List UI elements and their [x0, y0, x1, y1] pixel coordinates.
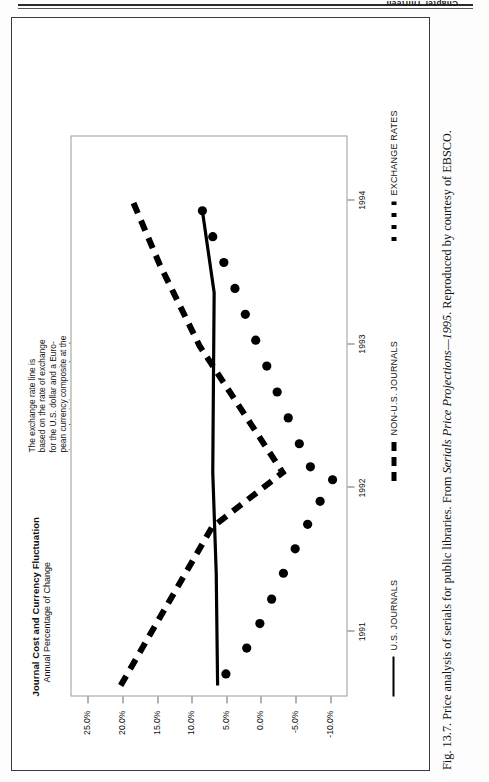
y-axis-tick — [295, 696, 296, 703]
legend-label: NON-U.S. JOURNALS — [388, 341, 398, 435]
x-axis-tick — [347, 199, 354, 200]
exchange-rate-point — [230, 283, 239, 292]
rule-thin — [18, 8, 473, 9]
y-axis-label: 20.0% — [116, 710, 126, 750]
swatch-stroke — [391, 441, 396, 481]
exchange-rate-point — [272, 387, 281, 396]
legend-item-dotted: EXCHANGE RATES — [384, 110, 402, 241]
exchange-rate-point — [197, 206, 206, 215]
exchange-rate-point — [208, 232, 217, 241]
legend-label: U.S. JOURNALS — [388, 579, 398, 650]
legend-label: EXCHANGE RATES — [388, 110, 398, 195]
exchange-rate-point — [262, 361, 271, 370]
exchange-rate-point — [219, 257, 228, 266]
exchange-rate-point — [283, 413, 292, 422]
caption-source-title: Serials Price Projections—1995 — [440, 315, 454, 474]
x-axis-label: 1991 — [356, 614, 366, 648]
non-us-journals-line — [120, 202, 282, 685]
rotated-figure-canvas: Journal Cost and Currency Fluctuation An… — [12, 18, 429, 770]
legend-swatch-dotted-icon — [388, 201, 398, 241]
exchange-rate-point — [278, 568, 287, 577]
x-axis-label: 1992 — [356, 470, 366, 504]
legend-item-solid: U.S. JOURNALS — [384, 579, 402, 696]
y-axis-label: 5.0% — [220, 710, 230, 750]
x-axis-tick — [347, 343, 354, 344]
legend-swatch-dashed-icon — [388, 441, 398, 481]
y-axis-label: -5.0% — [289, 710, 299, 750]
y-axis-tick — [330, 696, 331, 703]
y-axis-label: 15.0% — [151, 710, 161, 750]
y-axis-tick — [87, 696, 88, 703]
exchange-rate-point — [327, 475, 336, 484]
exchange-rate-point — [242, 643, 251, 652]
plot-area — [70, 135, 347, 696]
running-head-text: Chapter Thirteen — [318, 0, 458, 8]
y-axis-label: 25.0% — [81, 710, 91, 750]
exchange-rate-point — [290, 544, 299, 553]
y-axis-tick — [191, 696, 192, 703]
y-axis-tick — [122, 696, 123, 703]
us-journals-line — [202, 210, 217, 685]
page-canvas: Chapter Thirteen Journal Cost and Curren… — [0, 0, 489, 782]
exchange-rate-point — [251, 335, 260, 344]
swatch-stroke — [392, 656, 394, 696]
x-axis-label: 1993 — [356, 327, 366, 361]
y-axis-tick — [260, 696, 261, 703]
exchange-rate-point — [294, 439, 303, 448]
figure-caption: Fig. 13.7. Price analysis of serials for… — [439, 18, 479, 770]
exchange-rate-point — [255, 618, 264, 627]
caption-number: Fig. 13.7. — [440, 723, 454, 770]
exchange-rate-point — [221, 669, 230, 678]
y-axis-label: 10.0% — [185, 710, 195, 750]
exchange-rate-point — [303, 519, 312, 528]
caption-text-2: . Reproduced by courtesy of EBSCO. — [440, 130, 454, 315]
exchange-rate-point — [267, 594, 276, 603]
x-axis-tick — [347, 486, 354, 487]
caption-text-1: Price analysis of serials for public lib… — [440, 477, 454, 720]
legend-swatch-solid-icon — [388, 656, 398, 696]
exchange-rate-point — [240, 309, 249, 318]
y-axis-label: -10.0% — [324, 710, 334, 750]
x-axis-label: 1994 — [356, 183, 366, 217]
y-axis-tick — [157, 696, 158, 703]
y-axis-label: 0.0% — [254, 710, 264, 750]
y-axis-tick — [226, 696, 227, 703]
swatch-stroke — [391, 201, 396, 241]
exchange-rate-point — [305, 462, 314, 471]
chart-legend: U.S. JOURNALSNON-U.S. JOURNALSEXCHANGE R… — [384, 96, 406, 696]
figure-box: Journal Cost and Currency Fluctuation An… — [11, 17, 430, 771]
exchange-rate-point — [315, 496, 324, 505]
figure-caption-wrap: Fig. 13.7. Price analysis of serials for… — [431, 17, 487, 771]
x-axis-tick — [347, 630, 354, 631]
legend-item-dashed: NON-U.S. JOURNALS — [384, 341, 402, 481]
plot-svg — [71, 134, 348, 695]
